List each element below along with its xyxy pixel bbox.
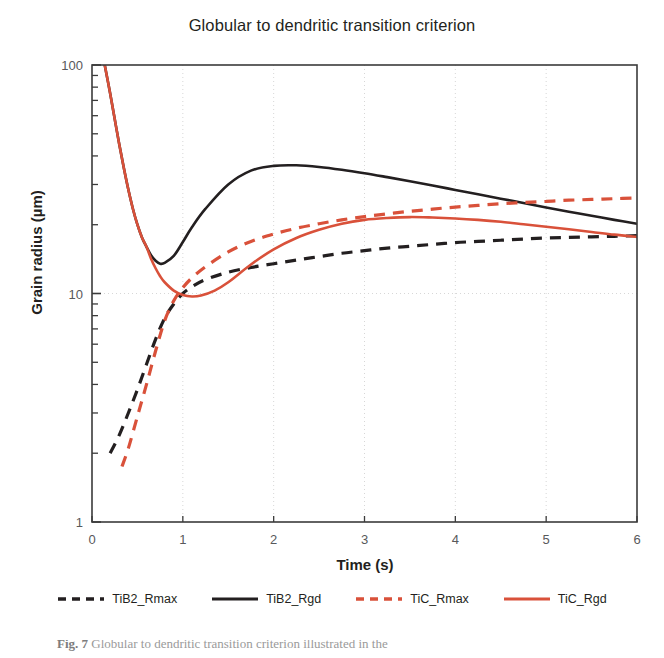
legend-swatch-solid: [503, 594, 551, 604]
caption-figure-number: Fig. 7: [57, 640, 88, 651]
plot-area: 110100 0123456: [0, 0, 664, 545]
y-tick-label: 1: [76, 515, 83, 530]
x-tick-label: 1: [179, 532, 186, 545]
gridlines: [92, 65, 637, 522]
figure-container: Globular to dendritic transition criteri…: [0, 0, 664, 658]
x-axis-ticks: 0123456: [88, 516, 640, 545]
x-tick-label: 5: [543, 532, 550, 545]
x-tick-label: 6: [633, 532, 640, 545]
legend-item-tic-rmax: TiC_Rmax: [355, 592, 469, 606]
legend-swatch-dashed: [57, 594, 105, 604]
legend-item-tic-rgd: TiC_Rgd: [503, 592, 607, 606]
x-tick-label: 0: [88, 532, 95, 545]
caption-body: Globular to dendritic transition criteri…: [91, 640, 387, 651]
x-axis-title: Time (s): [92, 556, 638, 573]
legend-item-tib2-rmax: TiB2_Rmax: [57, 592, 177, 606]
series-line-tib2-rmax: [110, 236, 637, 453]
legend-label: TiB2_Rgd: [266, 592, 321, 606]
chart-legend: TiB2_RmaxTiB2_RgdTiC_RmaxTiC_Rgd: [0, 592, 664, 606]
legend-label: TiB2_Rmax: [112, 592, 177, 606]
legend-swatch-dashed: [355, 594, 403, 604]
y-tick-label: 100: [61, 58, 83, 73]
legend-label: TiC_Rmax: [410, 592, 469, 606]
legend-label: TiC_Rgd: [558, 592, 607, 606]
x-tick-label: 3: [361, 532, 368, 545]
data-curves: [105, 65, 637, 466]
legend-item-tib2-rgd: TiB2_Rgd: [211, 592, 321, 606]
series-line-tic-rgd: [105, 65, 637, 297]
y-axis-ticks: 110100: [61, 58, 101, 530]
y-tick-label: 10: [69, 287, 83, 302]
x-tick-label: 4: [452, 532, 459, 545]
legend-swatch-solid: [211, 594, 259, 604]
x-tick-label: 2: [270, 532, 277, 545]
series-line-tib2-rgd: [105, 65, 637, 264]
figure-caption: Fig. 7 Globular to dendritic transition …: [0, 640, 664, 658]
